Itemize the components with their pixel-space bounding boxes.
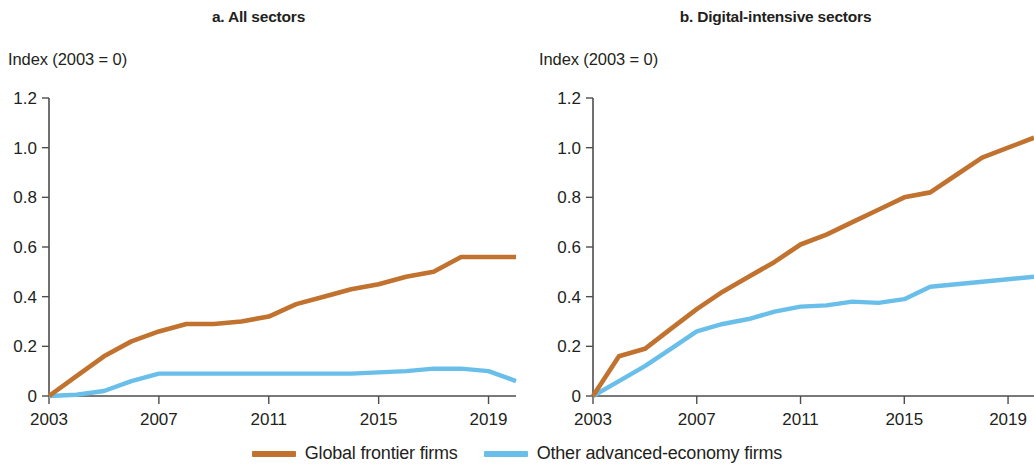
x-axis-tick-label: 2015	[885, 410, 923, 429]
panel-a-plot: 00.20.40.60.81.01.220032007201120152019	[0, 0, 517, 430]
y-axis-tick-label: 0.4	[557, 288, 581, 307]
x-axis-tick-label: 2019	[989, 410, 1027, 429]
y-axis-tick-label: 0.4	[13, 288, 37, 307]
chart-panel-a: a. All sectors Index (2003 = 0) 00.20.40…	[0, 0, 517, 430]
y-axis-tick-label: 1.2	[13, 89, 37, 108]
panel-b-plot: 00.20.40.60.81.01.220032007201120152019	[517, 0, 1034, 430]
x-axis-tick-label: 2011	[250, 410, 287, 429]
legend-item-global-frontier-firms: Global frontier firms	[252, 443, 458, 464]
figure-container: a. All sectors Index (2003 = 0) 00.20.40…	[0, 0, 1034, 475]
y-axis-tick-label: 0.8	[13, 188, 37, 207]
y-axis-tick-label: 1.2	[557, 89, 581, 108]
x-axis-tick-label: 2007	[140, 410, 178, 429]
y-axis-tick-label: 0	[572, 387, 581, 406]
x-axis-tick-label: 2007	[678, 410, 716, 429]
x-axis-tick-label: 2003	[574, 410, 612, 429]
legend-label-other-advanced-economy-firms: Other advanced-economy firms	[537, 443, 783, 464]
x-axis-tick-label: 2015	[360, 410, 398, 429]
y-axis-tick-label: 0.6	[557, 238, 581, 257]
y-axis-tick-label: 0.2	[13, 337, 37, 356]
x-axis-tick-label: 2011	[782, 410, 819, 429]
chart-legend: Global frontier firms Other advanced-eco…	[0, 432, 1034, 475]
y-axis-tick-label: 1.0	[557, 139, 581, 158]
legend-swatch-global-frontier-firms	[252, 451, 296, 457]
series-line-other-advanced-economy-firms	[49, 369, 516, 396]
x-axis-tick-label: 2003	[30, 410, 68, 429]
y-axis-tick-label: 0.8	[557, 188, 581, 207]
x-axis-tick-label: 2019	[470, 410, 508, 429]
legend-swatch-other-advanced-economy-firms	[484, 451, 528, 457]
y-axis-tick-label: 0.2	[557, 337, 581, 356]
y-axis-tick-label: 0	[28, 387, 37, 406]
legend-item-other-advanced-economy-firms: Other advanced-economy firms	[484, 443, 783, 464]
y-axis-tick-label: 0.6	[13, 238, 37, 257]
chart-panel-b: b. Digital-intensive sectors Index (2003…	[517, 0, 1034, 430]
legend-label-global-frontier-firms: Global frontier firms	[305, 443, 458, 464]
y-axis-tick-label: 1.0	[13, 139, 37, 158]
